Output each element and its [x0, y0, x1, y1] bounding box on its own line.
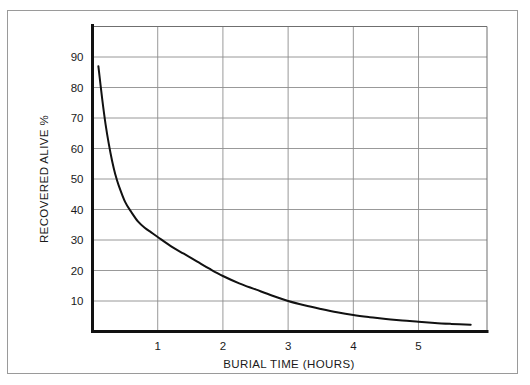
y-tick-label: 30: [71, 234, 84, 246]
x-tick-label: 4: [350, 340, 357, 352]
x-tick-label: 1: [155, 340, 161, 352]
y-tick-label: 70: [71, 112, 84, 124]
y-tick-label: 20: [71, 265, 84, 277]
y-tick-label: 10: [71, 295, 84, 307]
y-tick-label: 80: [71, 82, 84, 94]
data-curve-recovered-alive: [98, 66, 470, 325]
y-gridlines: [93, 57, 488, 301]
x-tick-labels: 12345: [155, 340, 422, 352]
x-tick-label: 2: [220, 340, 226, 352]
y-tick-label: 60: [71, 143, 84, 155]
y-tick-label: 50: [71, 173, 84, 185]
figure-container: 102030405060708090 12345 RECOVERED ALIVE…: [0, 0, 530, 385]
x-axis-title: BURIAL TIME (HOURS): [223, 358, 355, 370]
y-tick-labels: 102030405060708090: [71, 51, 84, 307]
y-tick-label: 40: [71, 204, 84, 216]
y-axis-title: RECOVERED ALIVE %: [38, 115, 50, 243]
y-tick-label: 90: [71, 51, 84, 63]
x-tick-label: 3: [285, 340, 291, 352]
line-chart: 102030405060708090 12345 RECOVERED ALIVE…: [0, 0, 530, 385]
x-tick-label: 5: [415, 340, 421, 352]
plot-axes: [93, 26, 488, 332]
